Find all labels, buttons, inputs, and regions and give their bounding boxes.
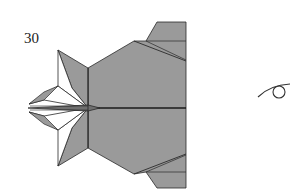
model-body <box>88 22 186 188</box>
view-eye-icon <box>258 84 290 98</box>
origami-model <box>28 22 186 188</box>
origami-diagram <box>0 0 292 193</box>
